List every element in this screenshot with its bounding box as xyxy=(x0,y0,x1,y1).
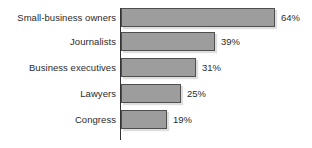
value-label-4: 19% xyxy=(173,110,192,129)
bar-1 xyxy=(121,32,215,51)
value-label-3: 25% xyxy=(187,84,206,103)
table-row: Small-business owners 64% xyxy=(0,8,312,27)
bar-0 xyxy=(121,8,275,27)
table-row: Lawyers 25% xyxy=(0,84,312,103)
category-label-0: Small-business owners xyxy=(17,8,116,27)
table-row: Congress 19% xyxy=(0,110,312,129)
bar-3 xyxy=(121,84,181,103)
value-label-0: 64% xyxy=(281,8,300,27)
category-label-4: Congress xyxy=(75,110,116,129)
value-label-1: 39% xyxy=(221,32,240,51)
category-label-1: Journalists xyxy=(70,32,116,51)
category-label-3: Lawyers xyxy=(80,84,116,103)
bar-chart: Small-business owners 64% Journalists 39… xyxy=(0,0,312,148)
table-row: Business executives 31% xyxy=(0,58,312,77)
table-row: Journalists 39% xyxy=(0,32,312,51)
value-label-2: 31% xyxy=(202,58,221,77)
bar-rows: Small-business owners 64% Journalists 39… xyxy=(0,0,312,148)
bar-4 xyxy=(121,110,167,129)
category-label-2: Business executives xyxy=(29,58,116,77)
bar-2 xyxy=(121,58,196,77)
